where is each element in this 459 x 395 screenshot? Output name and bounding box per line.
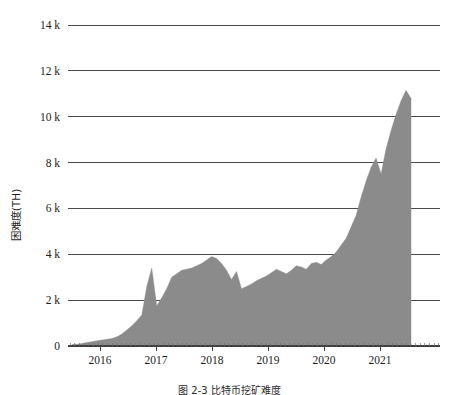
figure-container: 02 k4 k6 k8 k10 k12 k14 k 20162017201820… [0,0,459,395]
y-axis-title: 困难度(TH) [10,189,22,242]
x-tick-label-2020: 2020 [313,354,336,366]
x-tick-label-2019: 2019 [257,354,280,366]
chart-plot-area [72,90,411,346]
figure-caption: 图 2-3 比特币挖矿难度 [0,385,459,395]
y-tick-label-8000: 8 k [46,157,61,169]
chart-x-axis: 201620172018201920202021 [89,346,392,366]
y-tick-label-0: 0 [54,340,60,352]
chart-y-axis: 02 k4 k6 k8 k10 k12 k14 k [40,19,60,352]
difficulty-area-series [72,90,411,346]
y-tick-label-10000: 10 k [40,111,60,123]
x-tick-label-2017: 2017 [145,354,168,366]
difficulty-area-chart: 02 k4 k6 k8 k10 k12 k14 k 20162017201820… [0,0,459,395]
x-tick-label-2021: 2021 [369,354,392,366]
x-tick-label-2018: 2018 [201,354,224,366]
y-tick-label-12000: 12 k [40,65,60,77]
y-tick-label-4000: 4 k [46,248,61,260]
y-tick-label-6000: 6 k [46,202,61,214]
x-tick-label-2016: 2016 [89,354,112,366]
y-tick-label-14000: 14 k [40,19,60,31]
y-tick-label-2000: 2 k [46,294,61,306]
